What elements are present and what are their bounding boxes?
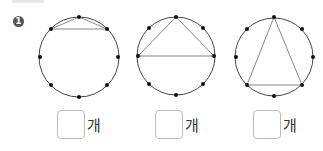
- figure-circle-1: [38, 15, 120, 99]
- answer-group-2: 개: [155, 110, 199, 139]
- answer-box-1[interactable]: [57, 110, 85, 139]
- answer-box-3[interactable]: [253, 110, 281, 139]
- unit-label-2: 개: [185, 114, 199, 135]
- unit-label-3: 개: [283, 114, 297, 135]
- figure-circle-2: [136, 15, 216, 97]
- unit-label-1: 개: [87, 114, 101, 135]
- answer-group-3: 개: [253, 110, 297, 139]
- answer-box-2[interactable]: [155, 110, 183, 139]
- answer-group-1: 개: [57, 110, 101, 139]
- figure-circle-3: [234, 15, 315, 98]
